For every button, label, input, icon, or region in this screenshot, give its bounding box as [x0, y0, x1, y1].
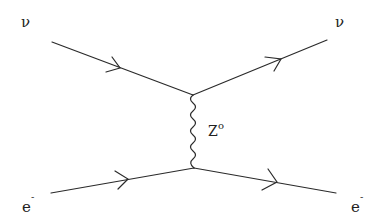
z-boson-propagator — [191, 95, 196, 168]
electron-out-charge: - — [360, 192, 363, 202]
electron-in-line — [51, 168, 194, 193]
electron-out-line — [194, 168, 336, 193]
neutrino-in-label: ν — [21, 15, 30, 30]
electron-out-arrow-icon — [262, 169, 277, 190]
diagram-lines — [0, 0, 381, 220]
electron-out-label: e - — [351, 200, 360, 215]
neutrino-out-line — [193, 40, 327, 95]
neutrino-in-line — [52, 42, 193, 95]
z-boson-label: Z o — [208, 124, 218, 138]
electron-in-charge: - — [31, 192, 34, 202]
z-boson-superscript: o — [218, 121, 224, 131]
electron-in-label: e - — [22, 200, 31, 215]
feynman-diagram: ν ν e - e - Z o — [0, 0, 381, 220]
neutrino-out-label: ν — [335, 15, 344, 30]
